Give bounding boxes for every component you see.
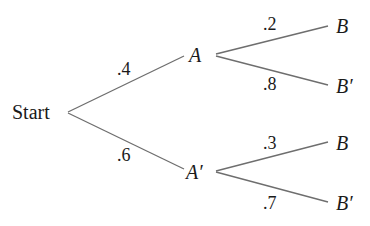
probability-a-prime-b-prime: .7 (263, 194, 277, 212)
probability-a-prime-b: .3 (263, 134, 277, 152)
node-a: A (189, 45, 201, 65)
tree-edges (0, 0, 370, 226)
probability-tree-diagram: Start A A′ B B′ B B′ .4 .6 .2 .8 .3 .7 (0, 0, 370, 226)
node-a-prime: A′ (186, 162, 203, 182)
probability-a-b: .2 (263, 15, 277, 33)
probability-start-a: .4 (117, 60, 131, 78)
node-a-prime-b: B (336, 133, 348, 153)
node-start: Start (12, 102, 50, 122)
node-a-b-prime: B′ (336, 76, 353, 96)
probability-start-a-prime: .6 (117, 146, 131, 164)
probability-a-b-prime: .8 (263, 75, 277, 93)
node-a-b: B (336, 16, 348, 36)
node-a-prime-b-prime: B′ (336, 193, 353, 213)
